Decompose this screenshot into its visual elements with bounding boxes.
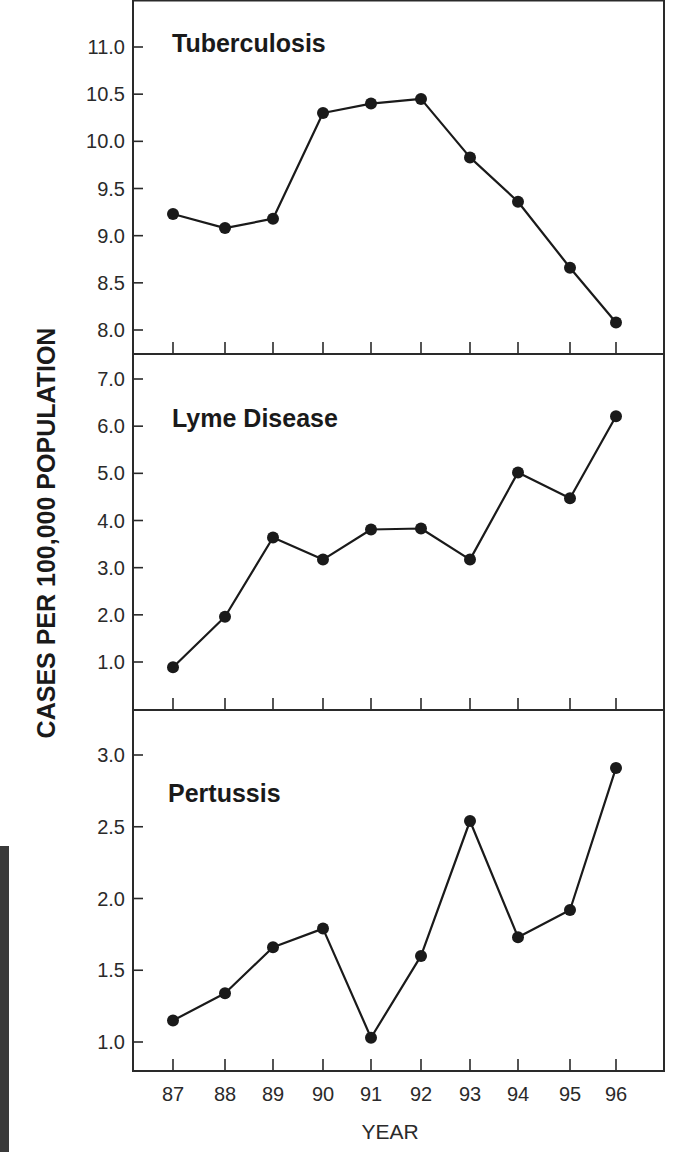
data-point (512, 931, 524, 943)
y-tick-label: 3.0 (97, 744, 125, 766)
y-tick-label: 3.0 (97, 557, 125, 579)
y-tick-label: 1.5 (97, 959, 125, 981)
data-point (464, 151, 476, 163)
data-point (564, 492, 576, 504)
data-point (564, 904, 576, 916)
y-tick-label: 1.0 (97, 651, 125, 673)
data-point (167, 1015, 179, 1027)
panel-lyme-disease: 1.02.03.04.05.06.07.0Lyme Disease (97, 368, 664, 710)
data-point (167, 208, 179, 220)
data-point (610, 410, 622, 422)
data-line (173, 416, 616, 667)
data-point (564, 262, 576, 274)
data-point (219, 987, 231, 999)
y-tick-label: 8.5 (97, 272, 125, 294)
data-point (317, 923, 329, 935)
data-point (167, 661, 179, 673)
y-tick-label: 8.0 (97, 319, 125, 341)
x-tick-label: 87 (162, 1083, 184, 1105)
x-tick-label: 93 (459, 1083, 481, 1105)
y-tick-label: 10.5 (86, 83, 125, 105)
x-tick-label: 92 (410, 1083, 432, 1105)
y-tick-label: 2.0 (97, 604, 125, 626)
panel-title: Pertussis (168, 779, 281, 807)
x-tick-label: 96 (605, 1083, 627, 1105)
y-tick-label: 9.0 (97, 225, 125, 247)
y-tick-label: 11.0 (88, 36, 125, 58)
data-point (464, 815, 476, 827)
y-tick-label: 2.0 (97, 888, 125, 910)
y-tick-label: 5.0 (97, 462, 125, 484)
y-tick-label: 9.5 (97, 178, 125, 200)
data-point (219, 222, 231, 234)
data-point (415, 950, 427, 962)
x-axis: 87888990919293949596 (162, 1059, 627, 1105)
x-tick-label: 91 (360, 1083, 382, 1105)
data-point (512, 196, 524, 208)
data-point (365, 1032, 377, 1044)
data-point (610, 762, 622, 774)
y-axis-title: CASES PER 100,000 POPULATION (32, 328, 60, 739)
x-tick-label: 88 (214, 1083, 236, 1105)
data-point (317, 107, 329, 119)
y-tick-label: 10.0 (86, 130, 125, 152)
panel-title: Lyme Disease (172, 404, 338, 432)
data-point (610, 317, 622, 329)
x-tick-label: 94 (507, 1083, 529, 1105)
x-tick-label: 95 (559, 1083, 581, 1105)
x-tick-label: 90 (312, 1083, 334, 1105)
y-tick-label: 6.0 (97, 415, 125, 437)
data-point (415, 523, 427, 535)
y-tick-label: 1.0 (97, 1031, 125, 1053)
outer-frame (133, 1, 664, 1072)
data-point (267, 941, 279, 953)
data-point (219, 611, 231, 623)
data-point (365, 524, 377, 536)
chart-frame (133, 1, 664, 1072)
panel-title: Tuberculosis (172, 29, 326, 57)
x-axis-title: YEAR (361, 1120, 418, 1143)
data-point (415, 93, 427, 105)
panel-tuberculosis: 8.08.59.09.510.010.511.0Tuberculosis (86, 29, 664, 354)
data-point (512, 466, 524, 478)
x-tick-label: 89 (262, 1083, 284, 1105)
y-tick-label: 7.0 (97, 368, 125, 390)
data-point (464, 554, 476, 566)
y-tick-label: 4.0 (97, 510, 125, 532)
data-point (317, 554, 329, 566)
data-point (365, 98, 377, 110)
stacked-line-chart: 8.08.59.09.510.010.511.0Tuberculosis1.02… (0, 0, 684, 1152)
data-line (173, 99, 616, 323)
data-line (173, 768, 616, 1038)
chart-panels: 8.08.59.09.510.010.511.0Tuberculosis1.02… (86, 29, 664, 1053)
y-tick-label: 2.5 (97, 816, 125, 838)
panel-pertussis: 1.01.52.02.53.0Pertussis (97, 744, 622, 1053)
data-point (267, 213, 279, 225)
data-point (267, 532, 279, 544)
